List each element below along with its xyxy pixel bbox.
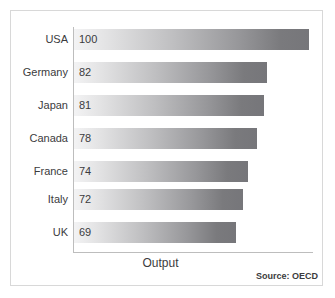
category-label-france: France [0,161,68,182]
category-label-japan: Japan [0,95,68,116]
category-label-canada: Canada [0,128,68,149]
bar-germany: 82 [74,62,267,83]
bar-france: 74 [74,161,248,182]
bar-value-uk: 69 [79,222,91,243]
category-label-usa: USA [0,29,68,50]
category-label-germany: Germany [0,62,68,83]
bar-value-japan: 81 [79,95,91,116]
bar-value-usa: 100 [79,29,97,50]
bar-value-france: 74 [79,161,91,182]
bar-usa: 100 [74,29,309,50]
source-note: Source: OECD [256,271,318,281]
bar-chart-plot-area: USA 100 Germany 82 Japan 81 Canada 78 Fr… [0,0,335,298]
x-axis-title: Output [73,256,248,270]
bar-value-germany: 82 [79,62,91,83]
category-label-uk: UK [0,222,68,243]
bar-italy: 72 [74,189,243,210]
bar-uk: 69 [74,222,236,243]
category-label-italy: Italy [0,189,68,210]
bar-value-canada: 78 [79,128,91,149]
bar-japan: 81 [74,95,264,116]
x-axis-line [73,252,313,253]
bar-value-italy: 72 [79,189,91,210]
bar-canada: 78 [74,128,257,149]
